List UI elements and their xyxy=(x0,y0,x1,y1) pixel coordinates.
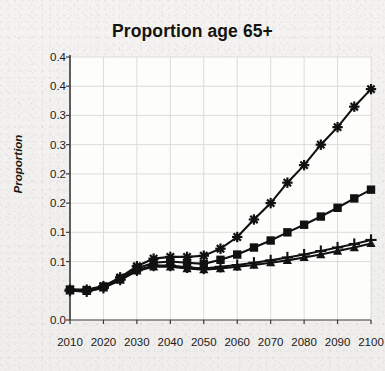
data-point-star xyxy=(232,232,242,242)
data-point-square xyxy=(250,243,258,251)
data-point-star xyxy=(249,214,259,224)
data-point-star xyxy=(299,160,309,170)
plot-area xyxy=(0,0,385,371)
data-point-square xyxy=(317,212,325,220)
chart-figure: Proportion age 65+ Proportion 0.40.40.30… xyxy=(0,0,385,371)
data-point-star xyxy=(199,251,209,261)
data-point-square xyxy=(233,250,241,258)
data-point-square xyxy=(266,236,274,244)
data-point-star xyxy=(332,122,342,132)
data-point-star xyxy=(349,101,359,111)
data-point-square xyxy=(300,221,308,229)
data-point-square xyxy=(283,228,291,236)
data-point-square xyxy=(367,185,375,193)
data-point-square xyxy=(333,204,341,212)
data-point-star xyxy=(215,243,225,253)
data-point-star xyxy=(316,139,326,149)
data-point-square xyxy=(350,194,358,202)
data-point-star xyxy=(265,198,275,208)
data-point-star xyxy=(282,177,292,187)
data-point-star xyxy=(366,84,376,94)
